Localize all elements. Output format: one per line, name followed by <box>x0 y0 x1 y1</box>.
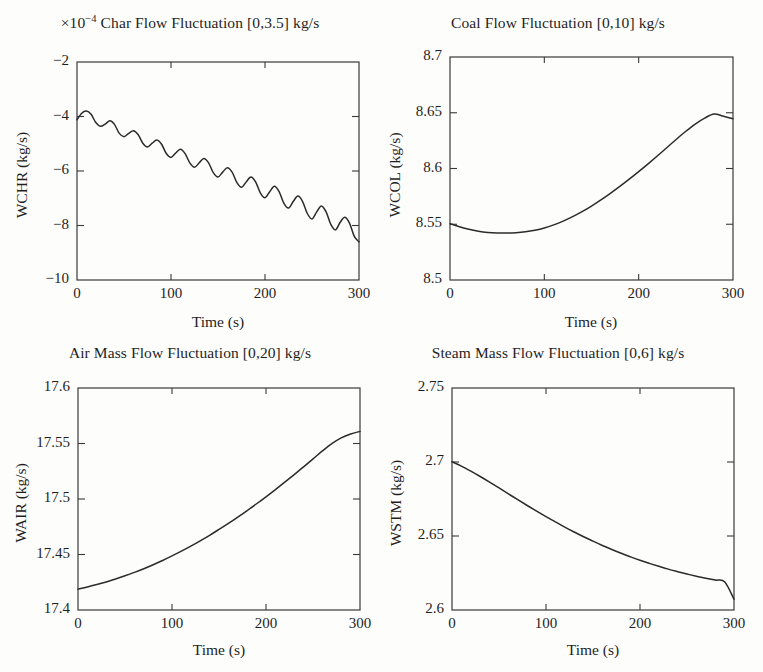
data-series-wcol <box>450 114 733 233</box>
chart-panel-wchr: ×10−4 Char Flow Fluctuation [0,3.5] kg/s… <box>0 14 380 340</box>
y-tick-label: 8.6 <box>354 159 442 176</box>
data-series-wair <box>78 431 360 589</box>
x-axis-label-wchr: Time (s) <box>77 313 359 331</box>
x-tick-label: 200 <box>599 285 679 302</box>
x-tick-label: 100 <box>132 615 212 632</box>
axes-frame <box>450 57 733 280</box>
x-tick-label: 0 <box>38 615 118 632</box>
y-tick-label: 17.45 <box>0 545 70 562</box>
x-tick-label: 200 <box>600 615 680 632</box>
x-tick-label: 0 <box>412 615 492 632</box>
x-tick-label: 200 <box>225 285 305 302</box>
chart-panel-wstm: Steam Mass Flow Fluctuation [0,6] kg/s W… <box>383 344 763 670</box>
y-tick-label: 2.75 <box>356 378 444 395</box>
axes-frame <box>452 388 734 610</box>
x-tick-label: 100 <box>504 285 584 302</box>
x-axis-label-wair: Time (s) <box>78 641 360 659</box>
y-tick-label: 2.7 <box>356 452 444 469</box>
data-series-wstm <box>452 462 734 600</box>
figure-panel-grid: ×10−4 Char Flow Fluctuation [0,3.5] kg/s… <box>0 0 763 672</box>
x-tick-label: 0 <box>37 285 117 302</box>
y-tick-label: 8.65 <box>354 103 442 120</box>
y-tick-label: −6 <box>0 161 69 178</box>
y-tick-label: 8.7 <box>354 47 442 64</box>
x-tick-label: 200 <box>226 615 306 632</box>
x-axis-label-wcol: Time (s) <box>450 313 732 331</box>
y-tick-label: −8 <box>0 216 69 233</box>
y-tick-label: −4 <box>0 107 69 124</box>
y-tick-label: 2.65 <box>356 526 444 543</box>
axes-frame <box>77 62 359 280</box>
x-axis-label-wstm: Time (s) <box>452 641 734 659</box>
y-tick-label: 17.55 <box>0 434 70 451</box>
x-tick-label: 300 <box>693 285 763 302</box>
y-tick-label: 17.6 <box>0 378 70 395</box>
x-tick-label: 300 <box>694 615 763 632</box>
y-tick-label: −2 <box>0 52 69 69</box>
x-tick-label: 0 <box>410 285 490 302</box>
x-tick-label: 100 <box>506 615 586 632</box>
data-series-wchr <box>77 111 359 242</box>
chart-panel-wair: Air Mass Flow Fluctuation [0,20] kg/s WA… <box>0 344 380 670</box>
x-tick-label: 100 <box>131 285 211 302</box>
y-tick-label: 8.55 <box>354 214 442 231</box>
chart-panel-wcol: Coal Flow Fluctuation [0,10] kg/s WCOL (… <box>383 14 763 340</box>
y-tick-label: 17.5 <box>0 489 70 506</box>
